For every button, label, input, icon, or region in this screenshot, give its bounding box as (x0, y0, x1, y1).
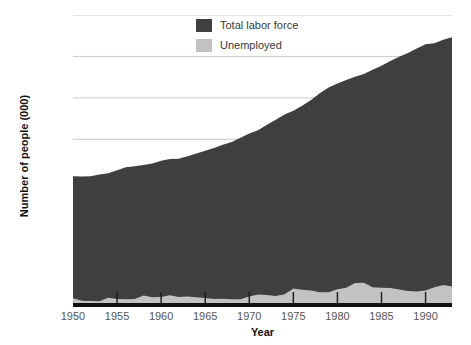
legend-item: Total labor force (196, 16, 298, 34)
chart-legend: Total labor forceUnemployed (196, 16, 298, 56)
legend-item: Unemployed (196, 36, 298, 54)
x-tick-label: 1990 (396, 310, 456, 322)
legend-label: Total labor force (220, 19, 298, 31)
legend-swatch-icon (196, 19, 212, 32)
legend-label: Unemployed (220, 39, 282, 51)
chart-container: Number of people (000) 02000040000600008… (0, 0, 471, 345)
x-axis-title: Year (73, 326, 452, 338)
legend-swatch-icon (196, 39, 212, 52)
